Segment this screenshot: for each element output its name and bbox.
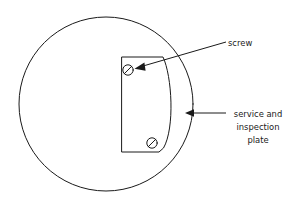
diagram-canvas: screw service and inspection plate [0, 0, 296, 206]
technical-diagram-figure: screw service and inspection plate [0, 0, 296, 206]
callout-leader-plate [185, 109, 226, 116]
screw-lower [147, 138, 157, 148]
screw-upper [123, 65, 133, 75]
callout-label-plate-line-2: inspection [236, 122, 279, 132]
plate-leader-arrowhead [185, 109, 194, 116]
screw-leader-arrowhead [135, 63, 146, 71]
callout-leader-screw [135, 42, 227, 71]
callout-label-plate-line-1: service and [234, 109, 282, 119]
screw-leader-line [141, 42, 226, 67]
tank-body-outline-circle [19, 17, 193, 191]
screw-lower-slot-line [148, 139, 156, 147]
callout-label-plate-line-3: plate [247, 135, 268, 145]
service-and-inspection-plate-outline [122, 57, 171, 152]
callout-label-screw: screw [228, 38, 252, 48]
screw-upper-slot-line [124, 66, 132, 74]
